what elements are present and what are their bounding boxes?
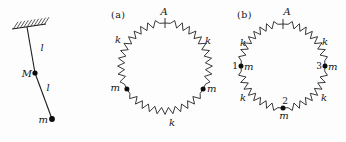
- spring-arc: [239, 66, 283, 110]
- panel-b-tag: (b): [237, 9, 252, 20]
- double-pendulum-diagram: l M l m: [12, 17, 55, 125]
- ring-b-node3-mass-label: m: [328, 61, 337, 72]
- mass-dot: [124, 87, 129, 92]
- bottom-mass-label: m: [39, 114, 48, 125]
- ring-a-spring-label-upper-left: k: [115, 34, 121, 45]
- upper-rod: [27, 27, 35, 73]
- ring-a-right-mass-label: m: [207, 83, 216, 94]
- ring-b-node2-number: 2: [282, 96, 288, 106]
- ring-b-node2-mass-label: m: [279, 110, 288, 121]
- figure-svg: l M l m (a) A k k k m m (b) A k k k k 1 …: [0, 0, 346, 142]
- panel-a-tag: (a): [111, 9, 126, 20]
- ring-a-left-mass-label: m: [111, 82, 120, 93]
- ring-b-spring-label-lower-left: k: [240, 92, 246, 103]
- physics-figure-canvas: l M l m (a) A k k k m m (b) A k k k k 1 …: [0, 0, 346, 142]
- spring-arc: [283, 66, 327, 110]
- bottom-mass-dot: [49, 116, 55, 122]
- ring-a-fixed-point-label: A: [159, 6, 167, 17]
- ring-b-fixed-point-label: A: [282, 6, 290, 17]
- ring-b-spring-label-upper-right: k: [322, 36, 328, 47]
- ring-a-spring-label-upper-right: k: [205, 35, 211, 46]
- mass-dot: [201, 87, 206, 92]
- upper-rod-length-label: l: [40, 42, 43, 53]
- middle-mass-dot: [32, 70, 37, 75]
- spring-arc: [127, 89, 203, 114]
- lower-rod: [35, 73, 52, 119]
- spring-arc: [118, 21, 165, 89]
- middle-mass-label: M: [21, 68, 33, 79]
- mass-dot: [239, 64, 244, 69]
- ring-b-node3-number: 3: [316, 61, 322, 71]
- spring-arc: [165, 21, 212, 89]
- lower-rod-length-label: l: [46, 82, 49, 93]
- ring-a-springs: [118, 18, 213, 114]
- ring-b-spring-label-lower-right: k: [321, 92, 327, 103]
- ring-b-spring-label-upper-left: k: [240, 37, 246, 48]
- ring-b-node1-mass-label: m: [244, 61, 253, 72]
- spring-ring-a-diagram: (a) A k k k m m: [111, 6, 217, 128]
- spring-ring-b-diagram: (b) A k k k k 1 m 2 m 3 m: [232, 6, 337, 121]
- ring-b-node1-number: 1: [232, 61, 238, 71]
- spring-arc: [283, 22, 327, 66]
- ceiling-hatch: [12, 17, 49, 29]
- ring-a-spring-label-bottom: k: [169, 117, 175, 128]
- mass-dot: [323, 64, 328, 69]
